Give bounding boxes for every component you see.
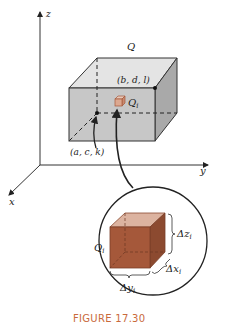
corner-near-label: (a, c, k)	[70, 147, 105, 157]
corner-point-near	[95, 111, 99, 115]
subbox-enlarged	[110, 213, 165, 268]
figure-canvas: z y x Q (b, d, l) (a, c, k) Qi Qi Δzi Δx	[0, 0, 225, 332]
box-front-face	[69, 88, 155, 141]
y-axis-label: y	[199, 165, 206, 176]
corner-point-far	[153, 86, 157, 90]
x-axis-label: x	[9, 196, 15, 207]
figure-diagram: z y x Q (b, d, l) (a, c, k) Qi Qi Δzi Δx	[0, 0, 225, 332]
subbox-small	[115, 96, 125, 106]
subbox-front-face	[110, 227, 150, 268]
box-label: Q	[127, 41, 135, 52]
figure-caption: FIGURE 17.30	[73, 313, 145, 324]
dy-label: Δyi	[119, 282, 135, 295]
corner-far-label: (b, d, l)	[117, 75, 150, 85]
x-axis	[9, 165, 40, 195]
z-axis-label: z	[45, 9, 51, 19]
